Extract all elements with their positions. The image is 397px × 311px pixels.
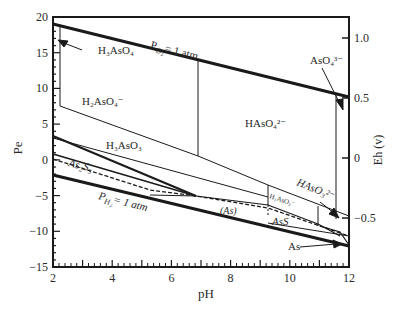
arrow-head-haso3 <box>329 208 339 218</box>
as2s3-label: As₂S₃ <box>67 156 94 174</box>
left-tick-labels: 20 15 10 5 0 −5 −10 −15 <box>29 10 48 274</box>
svg-text:1.0: 1.0 <box>354 31 369 45</box>
right-tick-labels: 1.0 0.5 0 −0.5 <box>354 31 376 225</box>
pe-ph-diagram: 20 15 10 5 0 −5 −10 −15 2 4 6 8 10 12 1.… <box>0 0 397 311</box>
x-axis-label: pH <box>198 286 214 301</box>
arrow-head-aso4 <box>336 99 343 110</box>
svg-text:8: 8 <box>228 271 234 285</box>
y-axis-left-label: Pe <box>10 141 25 154</box>
svg-text:−15: −15 <box>29 260 48 274</box>
field-labels: PO₂= 1 atm H₃AsO₄ H₂AsO₄⁻ HAsO₄²⁻ AsO₄³⁻… <box>67 38 344 252</box>
svg-text:10: 10 <box>284 271 296 285</box>
ass-label: AsS <box>271 215 289 227</box>
svg-text:4: 4 <box>109 271 115 285</box>
arrow-head-as <box>333 240 342 248</box>
h3aso3-label: H₃AsO₃ <box>106 139 142 151</box>
boundary-lines <box>53 24 349 246</box>
svg-text:0: 0 <box>354 151 360 165</box>
as-label: As <box>288 240 300 252</box>
svg-text:15: 15 <box>36 46 48 60</box>
svg-text:10: 10 <box>36 81 48 95</box>
h3aso4-label: H₃AsO₄ <box>98 44 134 56</box>
haso4-label: HAsO₄²⁻ <box>245 117 286 129</box>
svg-text:12: 12 <box>343 271 355 285</box>
bottom-tick-labels: 2 4 6 8 10 12 <box>50 271 355 285</box>
svg-text:20: 20 <box>36 10 48 24</box>
h2aso4-label: H₂AsO₄⁻ <box>82 95 124 107</box>
svg-text:−0.5: −0.5 <box>354 211 376 225</box>
svg-text:−10: −10 <box>29 224 48 238</box>
svg-text:2: 2 <box>50 271 56 285</box>
svg-text:0: 0 <box>42 153 48 167</box>
y-axis-right-label: Eh (v) <box>371 135 385 165</box>
as-paren-label: (As) <box>220 205 237 217</box>
po2-label: PO₂= 1 atm <box>149 38 200 64</box>
svg-text:0.5: 0.5 <box>354 91 369 105</box>
bottom-axis-ticks <box>59 260 343 267</box>
svg-text:5: 5 <box>42 117 48 131</box>
po2-line <box>53 24 349 97</box>
aso4-label: AsO₄³⁻ <box>310 54 343 66</box>
svg-text:6: 6 <box>168 271 174 285</box>
svg-text:−5: −5 <box>35 189 48 203</box>
